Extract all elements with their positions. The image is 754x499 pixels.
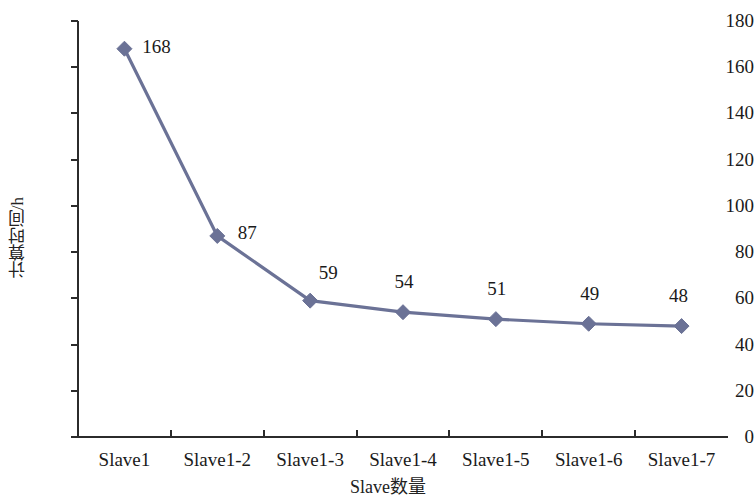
series-marker (396, 305, 411, 320)
data-series (124, 49, 681, 326)
x-axis-tick-label: Slave1-3 (276, 449, 344, 471)
plot-area (0, 0, 754, 499)
x-axis-tick-label: Slave1-6 (555, 449, 623, 471)
line-chart: 计算时间/h 180160140120100806040200 16887595… (0, 0, 754, 499)
x-axis-tick-label: Slave1-2 (184, 449, 252, 471)
axes (78, 21, 728, 437)
x-axis-title-text: Slave数量 (350, 472, 426, 498)
series-marker (488, 312, 503, 327)
x-axis-tick-label: Slave1-4 (369, 449, 437, 471)
x-axis-tick-label: Slave1 (99, 449, 151, 471)
series-marker (674, 319, 689, 334)
axis-ticks (71, 21, 635, 437)
x-axis-tick-label: Slave1-7 (648, 449, 716, 471)
data-markers (117, 41, 689, 333)
series-line (124, 49, 681, 326)
x-axis-title: Slave数量 (0, 472, 754, 498)
series-marker (117, 41, 132, 56)
x-axis-tick-label: Slave1-5 (462, 449, 530, 471)
series-marker (581, 316, 596, 331)
